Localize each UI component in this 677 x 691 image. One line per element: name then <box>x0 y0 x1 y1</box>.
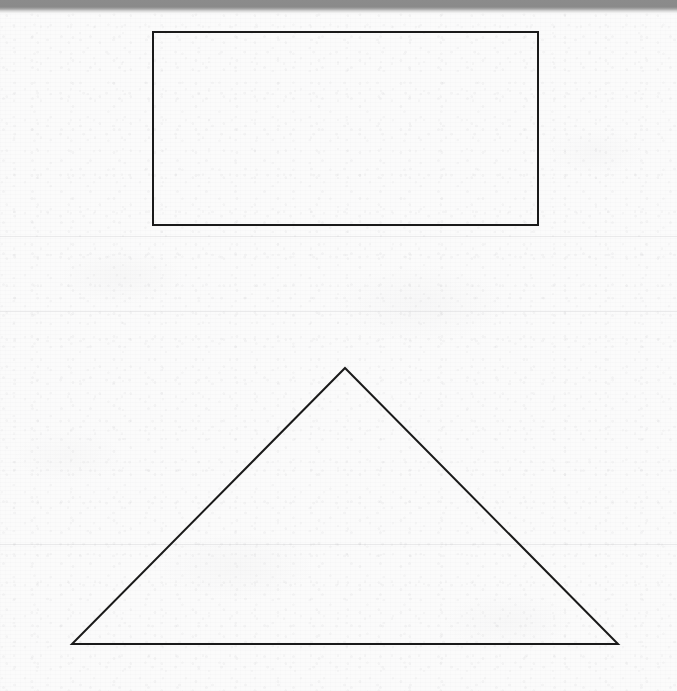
scanner-edge-band <box>0 0 677 14</box>
scan-seam-line <box>0 544 677 545</box>
shapes-canvas <box>0 0 677 691</box>
scan-seam-line <box>0 311 677 312</box>
paper-fiber-texture <box>0 0 677 691</box>
paper-grain-texture <box>0 0 677 691</box>
triangle-shape <box>72 368 618 644</box>
scanned-page <box>0 0 677 691</box>
scan-seam-line <box>0 236 677 237</box>
paper-blotches-texture <box>0 0 677 691</box>
rectangle-shape <box>153 32 538 225</box>
